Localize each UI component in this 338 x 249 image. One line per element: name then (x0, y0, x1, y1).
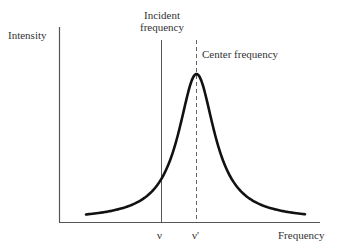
incident-label-line2: frequency (130, 21, 194, 33)
tick-nu: ν (157, 229, 162, 241)
x-axis-label: Frequency (278, 229, 324, 241)
lorentzian-curve (86, 74, 305, 214)
incident-label-line1: Incident (130, 9, 194, 21)
center-frequency-label: Center frequency (202, 48, 278, 60)
tick-nu-prime: ν' (192, 229, 199, 241)
lorentzian-diagram: Intensity Incident frequency Center freq… (0, 0, 338, 249)
y-axis-label: Intensity (8, 29, 47, 41)
incident-frequency-label: Incident frequency (130, 9, 194, 33)
diagram-canvas (0, 0, 338, 249)
